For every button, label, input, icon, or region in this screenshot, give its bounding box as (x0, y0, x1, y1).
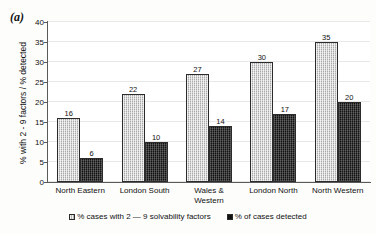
bar-value-label: 10 (152, 133, 160, 142)
category-label-line: North Eastern (48, 186, 112, 196)
y-axis-tick-label: 5 (28, 158, 44, 167)
bar-value-label: 17 (281, 105, 289, 114)
x-axis-category-label: London North (241, 186, 305, 196)
bar: 20 (338, 102, 361, 182)
bar-value-label: 30 (258, 53, 266, 62)
figure-panel-a: (a) % with 2 - 9 factors / % detected 05… (0, 0, 376, 234)
bar: 10 (145, 142, 168, 182)
category-label-line: London North (241, 186, 305, 196)
bar: 16 (57, 118, 80, 182)
category-label-line: Wales & (177, 186, 241, 196)
bar-value-label: 27 (193, 65, 201, 74)
bar: 27 (186, 74, 209, 182)
bar-value-label: 14 (216, 117, 224, 126)
plot-area: 1662210271430173520 (48, 22, 370, 182)
bar: 22 (122, 94, 145, 182)
category-label-line: London South (112, 186, 176, 196)
legend-label: % cases with 2 — 9 solvability factors (77, 212, 210, 221)
bar-group: 166 (48, 22, 112, 182)
y-axis-tick-mark (44, 42, 47, 43)
legend-swatch-icon (227, 214, 233, 220)
bar-value-label: 16 (65, 109, 73, 118)
legend-item[interactable]: % cases with 2 — 9 solvability factors (69, 212, 210, 221)
category-label-line: Western (177, 196, 241, 206)
x-axis-category-label: North Eastern (48, 186, 112, 196)
bar: 17 (273, 114, 296, 182)
y-axis-tick-label: 20 (28, 98, 44, 107)
y-axis-tick-mark (44, 122, 47, 123)
x-axis-category-label: London South (112, 186, 176, 196)
bar-value-label: 6 (90, 149, 94, 158)
bar-group: 2210 (112, 22, 176, 182)
y-axis-tick-label: 25 (28, 78, 44, 87)
y-axis-tick-label: 15 (28, 118, 44, 127)
y-axis-tick-mark (44, 102, 47, 103)
y-axis-tick-labels: 0510152025303540 (26, 22, 44, 182)
x-axis-category-label: North Western (306, 186, 370, 196)
x-axis-category-label: Wales &Western (177, 186, 241, 205)
chart-legend: % cases with 2 — 9 solvability factors% … (0, 212, 376, 221)
y-axis-tick-mark (44, 82, 47, 83)
bar: 14 (209, 126, 232, 182)
y-axis-tick-label: 30 (28, 58, 44, 67)
bar: 6 (80, 158, 103, 182)
y-axis-tick-mark (44, 22, 47, 23)
bar-value-label: 22 (129, 85, 137, 94)
bar-value-label: 35 (322, 33, 330, 42)
legend-item[interactable]: % of cases detected (227, 212, 307, 221)
x-axis-line (47, 182, 371, 183)
y-axis-tick-mark (44, 182, 47, 183)
y-axis-tick-mark (44, 142, 47, 143)
y-axis-tick-mark (44, 62, 47, 63)
y-axis-tick-label: 0 (28, 178, 44, 187)
y-axis-tick-label: 35 (28, 38, 44, 47)
y-axis-tick-label: 10 (28, 138, 44, 147)
bar: 30 (250, 62, 273, 182)
legend-swatch-icon (69, 214, 75, 220)
bar-value-label: 20 (345, 93, 353, 102)
y-axis-tick-label: 40 (28, 18, 44, 27)
bar-group: 3017 (241, 22, 305, 182)
y-axis-tick-mark (44, 162, 47, 163)
bar-group: 3520 (306, 22, 370, 182)
bar: 35 (315, 42, 338, 182)
category-label-line: North Western (306, 186, 370, 196)
bar-group: 2714 (177, 22, 241, 182)
legend-label: % of cases detected (235, 212, 307, 221)
